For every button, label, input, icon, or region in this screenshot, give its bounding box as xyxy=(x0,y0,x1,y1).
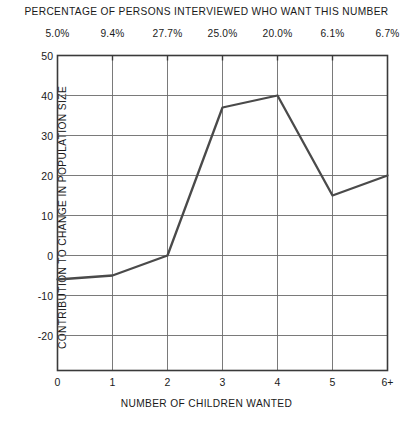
x-tick-label: 3 xyxy=(220,376,226,388)
x-axis-title: NUMBER OF CHILDREN WANTED xyxy=(0,398,413,409)
x-tick-label: 1 xyxy=(110,376,116,388)
chart-figure: PERCENTAGE OF PERSONS INTERVIEWED WHO WA… xyxy=(0,0,413,423)
x-tick-label: 4 xyxy=(275,376,281,388)
x-tick-label: 0 xyxy=(55,376,61,388)
x-tick-label: 6+ xyxy=(382,376,394,388)
x-tick-label: 5 xyxy=(330,376,336,388)
x-tick-label: 2 xyxy=(165,376,171,388)
x-axis-ticks: 0123456+ xyxy=(0,376,413,392)
gridlines xyxy=(58,56,388,371)
plot-area xyxy=(0,0,413,423)
